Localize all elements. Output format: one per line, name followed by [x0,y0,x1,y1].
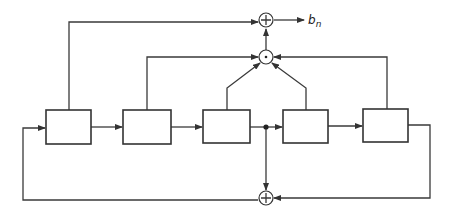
output-xor-node [259,13,273,27]
register-stage-1 [46,110,91,144]
register-stage-3 [203,110,250,143]
wire-stage2-to-and [147,57,258,110]
wire-stage1-to-output-xor [69,22,258,110]
wire-stage5-to-and [274,57,387,110]
register-stage-5 [363,109,408,142]
register-stage-2 [123,110,171,144]
output-label: bn [308,13,322,29]
register-stage-4 [283,110,328,143]
feedback-xor-node [259,191,273,205]
diagram-canvas: bn [0,0,450,217]
and-node [259,50,273,64]
junction-dot [263,124,268,129]
wire-stage3-to-and [227,63,260,110]
wire-stage4-to-and [272,63,306,110]
